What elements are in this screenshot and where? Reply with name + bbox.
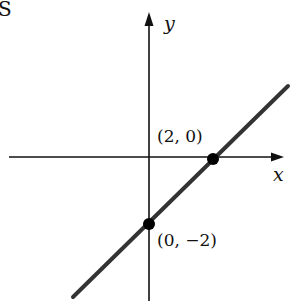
point-y-intercept bbox=[143, 218, 155, 230]
corner-text: S bbox=[0, 0, 12, 21]
point-label-x-intercept: (2, 0) bbox=[157, 126, 203, 146]
graph-line bbox=[73, 86, 288, 297]
coordinate-plane: S y x (2, 0) (0, −2) bbox=[0, 0, 296, 301]
y-axis-label: y bbox=[163, 12, 175, 34]
x-axis-arrow-icon bbox=[271, 153, 284, 162]
x-axis-label: x bbox=[273, 163, 284, 185]
point-label-y-intercept: (0, −2) bbox=[157, 230, 217, 250]
point-x-intercept bbox=[207, 153, 219, 165]
y-axis-arrow-icon bbox=[145, 12, 154, 26]
